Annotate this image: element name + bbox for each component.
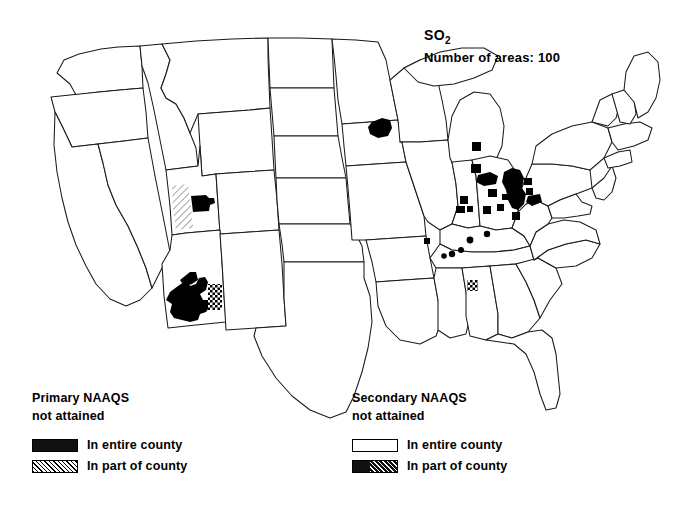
marker-missouri-entire xyxy=(424,238,430,244)
state-kansas xyxy=(276,178,350,224)
marker-ohio-entire-1 xyxy=(488,189,497,197)
marker-ohio-entire-3 xyxy=(497,204,504,211)
marker-tennessee-entire-1 xyxy=(449,251,455,257)
swatch-solid-black-icon xyxy=(32,439,78,452)
state-colorado xyxy=(216,170,279,234)
state-connecticut xyxy=(604,150,632,168)
state-southdakota xyxy=(270,88,338,136)
marker-arizona-partial xyxy=(208,284,222,310)
state-northdakota xyxy=(268,38,334,88)
marker-michigan-entire-1 xyxy=(472,142,481,151)
legend-item-label: In entire county xyxy=(87,439,182,452)
state-massachusetts xyxy=(608,122,652,150)
legend-primary-rows: In entire county In part of county xyxy=(32,435,187,477)
marker-indiana-entire-2 xyxy=(467,206,473,212)
marker-pennsylvania-entire-2 xyxy=(526,188,533,195)
map-title-block: SO2 Number of areas: 100 xyxy=(424,26,560,66)
legend-item: In entire county xyxy=(32,435,187,456)
state-louisiana xyxy=(376,278,442,344)
marker-michigan-entire-2 xyxy=(471,164,481,173)
legend-item-label: In entire county xyxy=(407,439,502,452)
state-arkansas xyxy=(366,236,434,282)
pollutant-title: SO2 xyxy=(424,26,560,47)
marker-indiana-entire-1 xyxy=(460,196,468,204)
marker-tennessee-entire-2 xyxy=(458,247,464,253)
marker-alabama-partial xyxy=(467,280,478,291)
swatch-white-outline-icon xyxy=(352,439,398,452)
swatch-black-with-hatch-icon xyxy=(352,460,398,473)
state-washington xyxy=(57,46,143,95)
legend-primary-naaqs: Primary NAAQS not attained In entire cou… xyxy=(32,390,187,477)
state-wyoming xyxy=(198,108,274,176)
area-count-line: Number of areas: 100 xyxy=(424,49,560,66)
marker-kentucky-entire-2 xyxy=(484,231,490,237)
marker-ohio-entire-2 xyxy=(483,206,491,214)
legend-secondary-rows: In entire county In part of county xyxy=(352,435,507,477)
state-nebraska xyxy=(274,136,346,178)
legend-secondary-naaqs: Secondary NAAQS not attained In entire c… xyxy=(352,390,507,477)
pollutant-symbol: SO xyxy=(424,27,445,43)
legend-secondary-heading-line2: not attained xyxy=(352,408,507,426)
marker-indiana-entire-3 xyxy=(456,206,465,213)
marker-westvirginia-entire-1 xyxy=(512,212,520,220)
legend-item: In entire county xyxy=(352,435,507,456)
state-newyork xyxy=(532,122,612,170)
state-minnesota xyxy=(332,39,398,124)
legend-item-label: In part of county xyxy=(407,460,507,473)
legend-primary-heading-line1: Primary NAAQS xyxy=(32,390,187,408)
legend-item-label: In part of county xyxy=(87,460,187,473)
state-newjersey xyxy=(592,166,616,200)
legend-secondary-heading-line1: Secondary NAAQS xyxy=(352,390,507,408)
legend-item: In part of county xyxy=(352,456,507,477)
pollutant-subscript: 2 xyxy=(445,35,451,46)
state-outlines xyxy=(51,38,660,418)
legend-primary-heading-line2: not attained xyxy=(32,408,187,426)
marker-kentucky-entire-1 xyxy=(467,237,474,244)
state-newmexico xyxy=(220,230,286,330)
swatch-diagonal-hatch-icon xyxy=(32,460,78,473)
marker-pennsylvania-entire-1 xyxy=(524,178,532,185)
legend-item: In part of county xyxy=(32,456,187,477)
marker-tennessee-entire-3 xyxy=(441,253,447,259)
